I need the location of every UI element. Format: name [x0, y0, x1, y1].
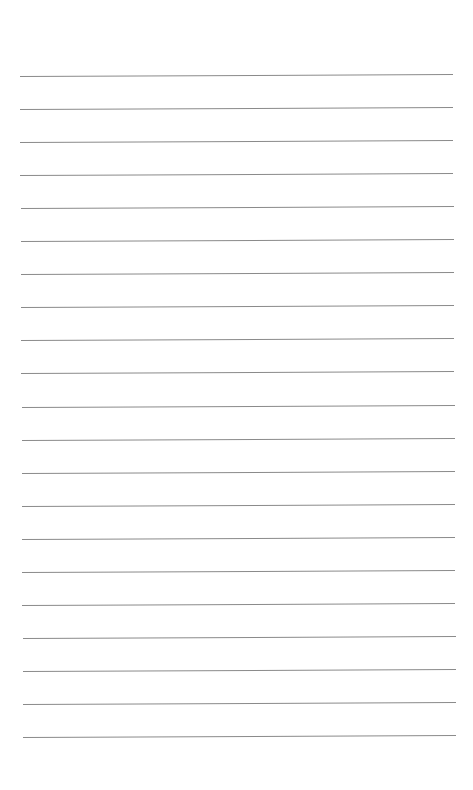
ruled-line	[20, 107, 453, 110]
ruled-line	[23, 636, 456, 639]
ruled-line	[22, 537, 455, 540]
lined-paper-page	[0, 0, 473, 790]
ruled-line	[23, 735, 456, 738]
ruled-line	[21, 206, 454, 209]
ruled-line	[21, 305, 454, 308]
ruled-line	[22, 438, 455, 441]
ruled-line	[22, 504, 455, 507]
ruled-line	[20, 173, 453, 176]
ruled-line	[22, 570, 455, 573]
ruled-line	[22, 603, 455, 606]
ruled-line	[21, 338, 454, 341]
ruled-line	[20, 140, 453, 143]
ruled-line	[21, 272, 454, 275]
ruled-line	[20, 74, 453, 77]
ruled-line	[23, 702, 456, 705]
ruled-line	[21, 239, 454, 242]
ruled-line	[21, 405, 454, 408]
ruled-line	[23, 669, 456, 672]
ruled-line	[22, 471, 455, 474]
ruled-line	[21, 371, 454, 374]
